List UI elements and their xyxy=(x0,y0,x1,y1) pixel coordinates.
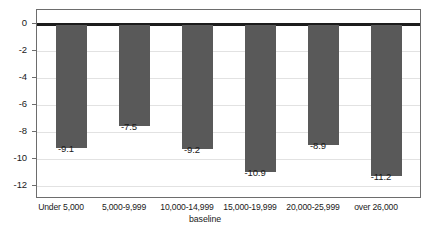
x-tick-label-over-26000: over 26,000 xyxy=(340,202,412,213)
value-label-20000-25999: -8.9 xyxy=(287,140,349,151)
x-axis-title: baseline xyxy=(0,214,446,224)
value-label-over-26000: -11.2 xyxy=(350,171,412,182)
gridline-1 xyxy=(37,51,420,52)
y-tick-6 xyxy=(32,185,37,186)
x-tick-label-5000-9999: 5,000-9,999 xyxy=(88,202,160,213)
x-tick-label-10000-14999: 10,000-14,999 xyxy=(151,202,223,213)
value-label-5000-9999: -7.5 xyxy=(98,121,160,132)
bar-10000-14999[interactable] xyxy=(182,25,213,149)
bar-15000-19999[interactable] xyxy=(245,25,276,172)
bar-5000-9999[interactable] xyxy=(119,25,150,126)
bar-under-5000[interactable] xyxy=(56,25,87,148)
y-tick-label-1: -2 xyxy=(0,45,27,55)
value-label-10000-14999: -9.2 xyxy=(161,144,223,155)
y-tick-2 xyxy=(32,77,37,78)
y-tick-1 xyxy=(32,50,37,51)
x-axis-title-text: baseline xyxy=(189,214,221,224)
y-tick-label-0: 0 xyxy=(0,18,27,28)
y-tick-3 xyxy=(32,104,37,105)
y-tick-label-6: -12 xyxy=(0,180,27,190)
x-tick-label-under-5000: Under 5,000 xyxy=(25,202,97,213)
bar-chart: 0 -2 -4 -6 -8 -10 -12 -9.1 -7.5 -9.2 -10… xyxy=(0,0,446,238)
gridline-6 xyxy=(37,186,420,187)
y-tick-5 xyxy=(32,158,37,159)
zero-baseline xyxy=(37,23,420,26)
y-tick-label-3: -6 xyxy=(0,99,27,109)
y-tick-0 xyxy=(32,23,37,24)
gridline-5 xyxy=(37,159,420,160)
y-tick-label-4: -8 xyxy=(0,126,27,136)
gridline-3 xyxy=(37,105,420,106)
y-tick-label-2: -4 xyxy=(0,72,27,82)
bar-20000-25999[interactable] xyxy=(308,25,339,145)
x-tick-label-20000-25999: 20,000-25,999 xyxy=(277,202,349,213)
gridline-2 xyxy=(37,78,420,79)
y-tick-4 xyxy=(32,131,37,132)
value-label-15000-19999: -10.9 xyxy=(224,167,286,178)
gridline-4 xyxy=(37,132,420,133)
y-tick-label-5: -10 xyxy=(0,153,27,163)
x-tick-label-15000-19999: 15,000-19,999 xyxy=(214,202,286,213)
bar-over-26000[interactable] xyxy=(371,25,402,176)
value-label-under-5000: -9.1 xyxy=(35,143,97,154)
